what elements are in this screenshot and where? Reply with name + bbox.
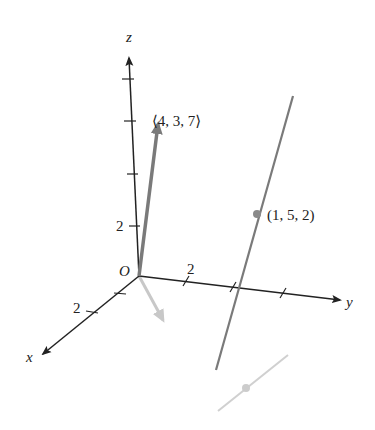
y-tick-label: 2 xyxy=(187,261,195,277)
y-axis-label: y xyxy=(344,294,353,310)
vector-label: ⟨4, 3, 7⟩ xyxy=(152,113,201,129)
projection-vector xyxy=(139,276,163,320)
projection-line xyxy=(218,355,288,411)
vector-arrow xyxy=(139,124,158,276)
x-tick-label: 2 xyxy=(73,300,81,316)
point-label: (1, 5, 2) xyxy=(267,207,315,224)
z-axis-label: z xyxy=(125,29,132,45)
origin-label: O xyxy=(119,263,130,279)
line-through-point xyxy=(216,96,293,370)
projection-point xyxy=(242,384,250,392)
x-tick xyxy=(114,293,126,294)
z-axis xyxy=(122,58,140,276)
z-tick-label: 2 xyxy=(116,218,124,234)
point-marker xyxy=(253,210,261,218)
x-axis xyxy=(43,276,139,354)
x-axis-label: x xyxy=(25,349,33,365)
3d-coordinate-diagram: z y x O 2 2 2 ⟨4, 3, 7⟩ (1, 5, 2) xyxy=(0,0,375,430)
